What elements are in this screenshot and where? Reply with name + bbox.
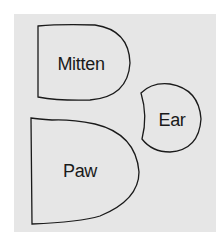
ear-label: Ear — [158, 110, 185, 130]
ear-piece: Ear — [141, 84, 201, 152]
mitten-label: Mitten — [57, 54, 104, 74]
mitten-piece: Mitten — [38, 25, 130, 101]
pattern-pieces: Mitten Ear Paw — [0, 0, 223, 238]
paw-label: Paw — [63, 161, 98, 181]
paw-piece: Paw — [31, 118, 139, 224]
